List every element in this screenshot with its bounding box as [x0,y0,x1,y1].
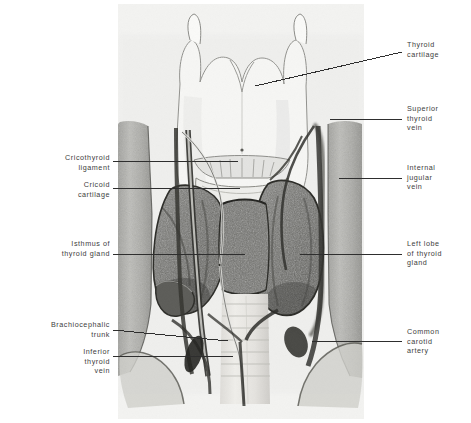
illustration-plate [118,4,364,419]
label-cricoid-cartilage: Cricoid cartilage [10,180,110,199]
label-brachiocephalic-trunk: Brachiocephalic trunk [4,320,110,339]
label-superior-thyroid-vein: Superior thyroid vein [407,104,439,133]
label-cricothyroid-ligament: Cricothyroid ligament [10,153,110,172]
anatomy-figure: Thyroid cartilage Superior thyroid vein … [0,0,471,423]
label-thyroid-cartilage: Thyroid cartilage [407,40,439,59]
label-common-carotid-artery: Common carotid artery [407,327,439,356]
label-inferior-thyroid-vein: Inferior thyroid vein [10,347,110,376]
label-internal-jugular-vein: Internal jugular vein [407,163,435,192]
anatomy-drawing [118,4,364,419]
label-isthmus-of-thyroid-gland: Isthmus of thyroid gland [10,239,110,258]
label-left-lobe-of-thyroid-gland: Left lobe of thyroid gland [407,239,442,268]
